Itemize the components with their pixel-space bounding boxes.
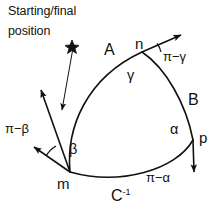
angle-label-alpha: α — [170, 122, 178, 137]
spherical-triangle-diagram: Starting/final position m n p A B C-1 γ … — [0, 0, 223, 220]
arc-label-C-inverse: C-1 — [111, 188, 131, 204]
tangent-arrow-up-at-m — [41, 90, 70, 172]
exterior-angle-label-pi-minus-alpha: π−α — [146, 171, 170, 184]
vertex-label-p: p — [199, 130, 207, 145]
arc-label-B: B — [188, 92, 199, 108]
angle-label-gamma: γ — [127, 68, 134, 83]
vertex-label-m: m — [57, 176, 70, 191]
arc-label-C-exponent: -1 — [123, 187, 131, 197]
angle-label-beta: β — [69, 142, 77, 157]
caption-line-2: position — [8, 25, 50, 38]
vertex-label-n: n — [135, 36, 143, 51]
tangent-arrow-left-at-m — [34, 147, 70, 172]
start-position-pointer-line — [62, 48, 73, 110]
exterior-angle-label-pi-minus-gamma: π−γ — [163, 50, 186, 63]
caption-line-1: Starting/final — [8, 5, 76, 18]
arc-C-inverse-path — [70, 140, 193, 177]
tangent-arrow-at-p — [193, 140, 194, 172]
arc-B-path — [142, 52, 193, 140]
arc-label-A: A — [104, 42, 115, 58]
arc-label-C-base: C — [111, 187, 123, 204]
angle-arc-pi-minus-beta — [46, 146, 56, 156]
exterior-angle-label-pi-minus-beta: π−β — [5, 122, 29, 135]
